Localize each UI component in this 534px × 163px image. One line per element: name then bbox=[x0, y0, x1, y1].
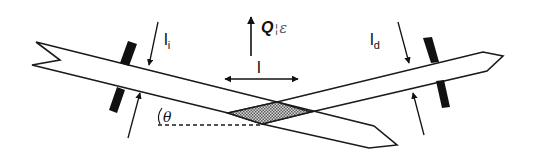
incident-width-arrows bbox=[128, 22, 158, 138]
diffracted-slit-lower-blade bbox=[436, 80, 450, 108]
incident-slit-upper-blade bbox=[120, 41, 137, 66]
q-symbol: Q bbox=[261, 19, 274, 36]
angle-arc-icon bbox=[158, 108, 162, 124]
incident-beam bbox=[32, 42, 397, 148]
q-parallel-symbol: ε bbox=[280, 20, 288, 36]
diffracted-width-arrows bbox=[398, 22, 424, 135]
diffracted-arrow-down-icon bbox=[398, 22, 409, 63]
diffracted-arrow-up-icon bbox=[413, 93, 424, 135]
scattering-geometry-diagram: θ li ld Q¦ε l bbox=[0, 0, 534, 163]
incident-arrow-up-icon bbox=[128, 93, 140, 138]
incident-slit bbox=[109, 41, 137, 113]
q-vector-label: Q¦ε bbox=[261, 19, 287, 36]
diffracted-slit bbox=[423, 37, 450, 108]
diffracted-width-subscript: d bbox=[374, 39, 380, 51]
incident-width-subscript: i bbox=[168, 39, 170, 51]
q-separator: ¦ bbox=[274, 22, 278, 36]
incident-slit-lower-blade bbox=[109, 87, 125, 113]
footprint-length-label: l bbox=[257, 58, 261, 77]
angle-label: θ bbox=[163, 109, 172, 125]
footprint-shaded-region bbox=[228, 102, 311, 124]
diffracted-slit-upper-blade bbox=[423, 37, 439, 63]
incident-width-label: li bbox=[164, 30, 170, 51]
diffracted-width-label: ld bbox=[370, 30, 380, 51]
incident-arrow-down-icon bbox=[149, 22, 158, 65]
